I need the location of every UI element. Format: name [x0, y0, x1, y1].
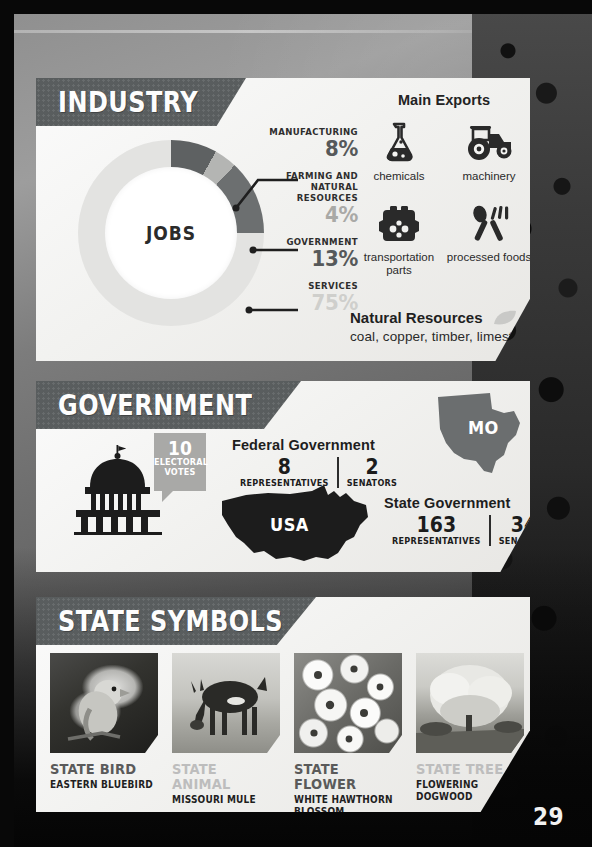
federal-senators-number: 2 [347, 457, 398, 478]
state-representatives-stat: 163 REPRESENTATIVES [384, 515, 489, 546]
symbol-state-flower: STATE FLOWER WHITE HAWTHORN BLOSSOM [294, 653, 402, 817]
main-exports-group: Main Exports chemicals [354, 92, 534, 277]
legend-value-farming: 4% [250, 203, 358, 226]
exports-grid: chemicals machinery [354, 120, 534, 277]
state-bird-category: STATE BIRD [50, 762, 158, 777]
state-representatives-label: REPRESENTATIVES [392, 536, 481, 546]
legend-item-farming: FARMING ANDNATURALRESOURCES 4% [250, 170, 358, 226]
legend-value-services: 75% [250, 291, 358, 314]
page-number: 29 [533, 803, 564, 831]
state-bird-name: EASTERN BLUEBIRD [50, 779, 158, 791]
export-item-machinery: machinery [444, 120, 534, 183]
leaf-icon [492, 309, 518, 327]
page-frame-left [0, 0, 14, 847]
mule-photo [172, 653, 280, 753]
state-animal-name: MISSOURI MULE [172, 794, 280, 806]
engine-icon [374, 201, 424, 245]
legend-value-manufacturing: 8% [250, 137, 358, 160]
export-item-transportation-parts: transportation parts [354, 201, 444, 277]
missouri-map-label: MO [468, 417, 499, 438]
hawthorn-photo [294, 653, 402, 753]
export-label-chemicals: chemicals [354, 170, 444, 183]
electoral-votes-label: ELECTORALVOTES [154, 457, 206, 477]
legend-item-services: SERVICES 75% [250, 280, 358, 314]
export-label-processed-foods: processed foods [444, 251, 534, 264]
industry-section: INDUSTRY JOBS MANUFACTURING 8% FARMING A… [36, 78, 530, 361]
industry-banner: INDUSTRY [36, 78, 246, 126]
government-banner-title: GOVERNMENT [58, 388, 252, 422]
export-item-processed-foods: processed foods [444, 201, 534, 277]
spoon-fork-icon [466, 201, 512, 245]
main-exports-title: Main Exports [354, 92, 534, 108]
donut-legend: MANUFACTURING 8% FARMING ANDNATURALRESOU… [250, 126, 358, 320]
bluebird-photo [50, 653, 158, 753]
state-flower-category: STATE FLOWER [294, 762, 402, 792]
government-banner: GOVERNMENT [36, 381, 301, 429]
state-symbols-banner: STATE SYMBOLS [36, 597, 316, 645]
state-symbols-section: STATE SYMBOLS STATE BIRD EASTERN BLUEBIR… [36, 597, 530, 812]
natural-resources-title: Natural Resources [350, 309, 483, 326]
state-representatives-number: 163 [392, 515, 481, 536]
usa-map-label: USA [270, 514, 309, 535]
industry-banner-title: INDUSTRY [58, 85, 198, 119]
export-label-transportation-parts: transportation parts [354, 251, 444, 277]
legend-label-farming: FARMING ANDNATURALRESOURCES [250, 170, 358, 203]
export-label-machinery: machinery [444, 170, 534, 183]
background-light-streak [0, 30, 502, 33]
export-item-chemicals: chemicals [354, 120, 444, 183]
federal-government-title: Federal Government [232, 437, 405, 453]
state-symbols-banner-title: STATE SYMBOLS [58, 604, 283, 638]
legend-value-government: 13% [250, 247, 358, 270]
state-animal-category: STATE ANIMAL [172, 762, 280, 792]
page-frame-top [0, 0, 592, 14]
legend-item-government: GOVERNMENT 13% [250, 236, 358, 270]
flask-icon [376, 120, 422, 164]
electoral-votes-number: 10 [154, 439, 206, 457]
symbol-state-bird: STATE BIRD EASTERN BLUEBIRD [50, 653, 158, 817]
federal-representatives-number: 8 [240, 457, 329, 478]
symbol-state-animal: STATE ANIMAL MISSOURI MULE [172, 653, 280, 817]
state-symbols-row: STATE BIRD EASTERN BLUEBIRD STATE A [50, 653, 524, 817]
electoral-votes-bubble: 10 ELECTORALVOTES [154, 433, 206, 491]
capitol-building-icon [72, 443, 164, 535]
government-section: GOVERNMENT 10 ELECTORALVOTES Federal Gov… [36, 381, 530, 572]
tractor-icon [461, 120, 517, 164]
legend-item-manufacturing: MANUFACTURING 8% [250, 126, 358, 160]
dogwood-photo [416, 653, 524, 753]
